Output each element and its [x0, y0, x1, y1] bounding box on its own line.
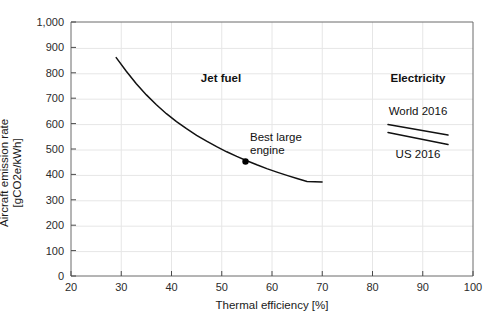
y-axis-title-line2: [gCO2e/kWh]	[11, 138, 23, 207]
chart-figure: 1,000 900 800 700 600 500 400 300 200 10…	[0, 0, 495, 321]
x-tick-label: 20	[65, 281, 77, 293]
y-tick-label: 500	[18, 143, 64, 155]
annotation-world-2016: World 2016	[389, 105, 448, 117]
y-tick-label: 400	[18, 168, 64, 180]
x-tick-label: 100	[464, 281, 482, 293]
x-tick-label: 30	[115, 281, 127, 293]
y-tick-label: 200	[18, 219, 64, 231]
annotation-electricity: Electricity	[391, 72, 446, 84]
x-tick-label: 50	[216, 281, 228, 293]
chart-plot-area	[0, 0, 495, 321]
annotation-us-2016: US 2016	[396, 148, 441, 160]
annotation-best-large-engine-line2: engine	[250, 144, 285, 156]
x-tick-label: 80	[366, 281, 378, 293]
y-tick-label: 800	[18, 67, 64, 79]
x-tick-label: 40	[165, 281, 177, 293]
y-axis-title-line1: Aircraft emission rate	[0, 119, 10, 227]
x-tick-label: 70	[316, 281, 328, 293]
y-tick-label: 1,000	[18, 16, 64, 28]
y-tick-label: 100	[18, 245, 64, 257]
y-tick-label: 0	[18, 270, 64, 282]
x-axis-title: Thermal efficiency [%]	[216, 299, 329, 311]
x-tick-label: 90	[417, 281, 429, 293]
y-tick-label: 900	[18, 41, 64, 53]
annotation-jet-fuel: Jet fuel	[201, 72, 241, 84]
y-tick-label: 300	[18, 194, 64, 206]
y-tick-label: 600	[18, 118, 64, 130]
y-axis-title: Aircraft emission rate [gCO2e/kWh]	[0, 119, 24, 227]
y-tick-label: 700	[18, 92, 64, 104]
x-tick-label: 60	[266, 281, 278, 293]
annotation-best-large-engine-line1: Best large	[250, 131, 302, 143]
marker-best-large-engine	[242, 158, 248, 164]
annotation-best-large-engine: Best large engine	[250, 131, 302, 156]
